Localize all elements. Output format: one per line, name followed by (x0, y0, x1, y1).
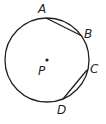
label-c: C (90, 62, 99, 76)
center-point-p (45, 58, 48, 61)
label-b: B (84, 27, 92, 41)
chord-cd (63, 70, 87, 99)
label-p: P (38, 64, 46, 78)
circle-diagram: A B C D P (0, 0, 106, 124)
chord-ab (46, 18, 82, 36)
label-d: D (57, 103, 66, 117)
label-a: A (37, 2, 46, 16)
